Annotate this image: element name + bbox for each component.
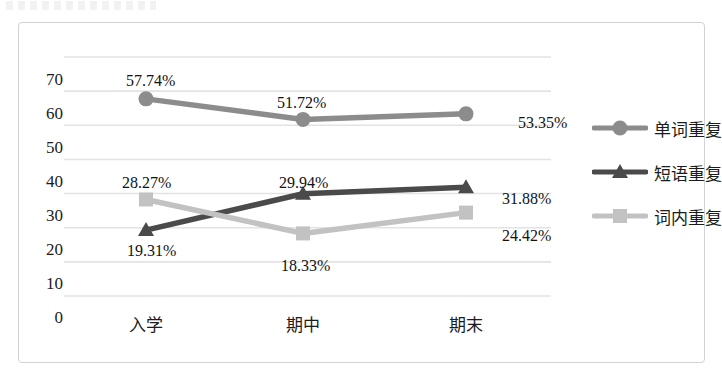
y-axis-tick-50: 50	[19, 139, 63, 156]
x-axis-tick-期中: 期中	[243, 317, 363, 334]
y-axis-tick-10: 10	[19, 275, 63, 292]
data-point-marker-circle	[139, 91, 154, 106]
legend-marker-circle-icon	[592, 118, 648, 138]
chart-container: 706050403020100 入学期中期末 57.74%51.72%53.35…	[18, 22, 705, 363]
y-axis-tick-0: 0	[19, 309, 63, 326]
y-axis-tick-40: 40	[19, 173, 63, 190]
legend-label-2: 词内重复	[654, 204, 722, 229]
data-label: 51.72%	[277, 95, 326, 111]
y-axis-tick-30: 30	[19, 207, 63, 224]
data-label: 29.94%	[279, 175, 328, 191]
y-axis-tick-60: 60	[19, 105, 63, 122]
data-point-marker-circle	[296, 112, 311, 127]
data-point-marker-circle	[459, 106, 474, 121]
legend-item-1[interactable]: 短语重复	[592, 159, 722, 185]
legend-marker-square-icon	[592, 206, 648, 226]
data-label: 31.88%	[502, 191, 551, 207]
data-point-marker-square	[139, 192, 153, 206]
data-label: 19.31%	[127, 243, 176, 259]
data-label: 28.27%	[122, 175, 171, 191]
legend-marker-triangle-icon	[592, 162, 648, 182]
y-axis-tick-70: 70	[19, 71, 63, 88]
x-axis-tick-期末: 期末	[406, 317, 526, 334]
line-chart-plot	[19, 23, 704, 362]
data-label: 24.42%	[502, 228, 551, 244]
y-axis-tick-20: 20	[19, 241, 63, 258]
data-point-marker-square	[296, 226, 310, 240]
legend-item-0[interactable]: 单词重复	[592, 115, 722, 141]
data-label: 53.35%	[518, 115, 567, 131]
scan-artifact	[6, 1, 156, 10]
data-point-marker-square	[459, 206, 473, 220]
data-label: 57.74%	[126, 73, 175, 89]
x-axis-tick-入学: 入学	[86, 317, 206, 334]
data-label: 18.33%	[281, 258, 330, 274]
legend-label-0: 单词重复	[654, 116, 722, 141]
legend-item-2[interactable]: 词内重复	[592, 203, 722, 229]
legend-label-1: 短语重复	[654, 160, 722, 185]
